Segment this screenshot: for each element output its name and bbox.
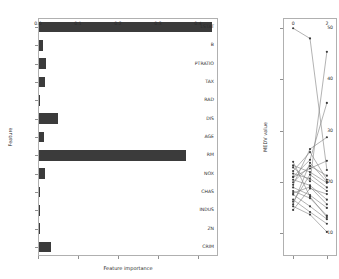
bar-indus xyxy=(39,205,40,216)
data-point xyxy=(292,184,294,186)
line-series xyxy=(283,18,337,256)
data-point xyxy=(326,190,328,192)
matplotlib-figure: 0.00.10.20.30.4 LSTATBPTRATIOTAXRADDISAG… xyxy=(0,0,339,279)
axes-spine-right xyxy=(217,18,218,256)
data-point xyxy=(326,51,328,53)
y-tickmark xyxy=(35,174,38,175)
y-tickmark xyxy=(280,79,283,80)
y-tickmark xyxy=(280,182,283,183)
x-tickmark xyxy=(38,256,39,259)
x-ticklabel-0: 0 xyxy=(292,22,295,27)
bar-nox xyxy=(39,168,45,179)
data-point xyxy=(309,211,311,213)
data-point xyxy=(309,159,311,161)
y-tickmark xyxy=(35,119,38,120)
y-ticklabel-chas: CHAS xyxy=(201,190,214,195)
data-point xyxy=(292,27,294,29)
y-tickmark xyxy=(35,155,38,156)
data-point xyxy=(326,216,328,218)
data-point xyxy=(309,148,311,150)
x-axis-label: Feature importance xyxy=(103,266,152,271)
x-ticklabel-0.3: 0.3 xyxy=(154,22,161,27)
bar-zn xyxy=(39,223,40,234)
data-point xyxy=(326,223,328,225)
y-ticklabel-dis: DIS xyxy=(206,116,214,121)
y-tickmark xyxy=(35,100,38,101)
y-axis-label: MEDV value xyxy=(263,122,268,152)
y-ticklabel-rm: RM xyxy=(207,153,214,158)
bar-rm xyxy=(39,150,186,161)
y-tickmark xyxy=(35,82,38,83)
y-ticklabel-30: 30 xyxy=(327,128,333,133)
y-ticklabel-b: B xyxy=(211,43,214,48)
x-tickmark xyxy=(158,256,159,259)
data-point xyxy=(326,199,328,201)
y-ticklabel-age: AGE xyxy=(204,135,214,140)
bar-age xyxy=(39,132,44,143)
data-point xyxy=(309,213,311,215)
data-point xyxy=(292,179,294,181)
data-point xyxy=(326,160,328,162)
medv-value-axes: 02 1020304050 xyxy=(283,18,337,256)
y-tickmark xyxy=(35,247,38,248)
data-point xyxy=(309,167,311,169)
bar-dis xyxy=(39,113,58,124)
data-point xyxy=(292,172,294,174)
data-point xyxy=(292,164,294,166)
y-ticklabel-40: 40 xyxy=(327,77,333,82)
data-point xyxy=(292,192,294,194)
y-ticklabel-20: 20 xyxy=(327,179,333,184)
data-point xyxy=(326,186,328,188)
y-ticklabel-tax: TAX xyxy=(205,80,214,85)
x-ticklabel-0.0: 0.0 xyxy=(34,22,41,27)
x-tickmark xyxy=(118,256,119,259)
y-ticklabel-rad: RAD xyxy=(204,98,214,103)
data-point xyxy=(326,102,328,104)
x-tickmark xyxy=(198,256,199,259)
data-point xyxy=(292,203,294,205)
data-point xyxy=(326,207,328,209)
data-point xyxy=(292,176,294,178)
data-point xyxy=(326,175,328,177)
data-point xyxy=(326,218,328,220)
data-point xyxy=(309,171,311,173)
data-point xyxy=(292,166,294,168)
y-tickmark xyxy=(280,131,283,132)
bar-ptratio xyxy=(39,58,46,69)
axes-spine-top xyxy=(38,18,218,19)
data-point xyxy=(326,193,328,195)
y-tickmark xyxy=(35,27,38,28)
data-point xyxy=(292,209,294,211)
y-ticklabel-crim: CRIM xyxy=(202,245,214,250)
data-point xyxy=(309,180,311,182)
data-point xyxy=(309,186,311,188)
data-point xyxy=(326,203,328,205)
data-point xyxy=(326,136,328,138)
y-tickmark xyxy=(35,64,38,65)
bar-tax xyxy=(39,77,45,88)
y-tickmark xyxy=(35,210,38,211)
x-tickmark xyxy=(327,256,328,259)
y-axis-label: Feature xyxy=(8,128,13,147)
bar-b xyxy=(39,40,43,51)
x-tickmark xyxy=(78,256,79,259)
y-ticklabel-indus: INDUS xyxy=(199,208,214,213)
data-point xyxy=(292,186,294,188)
data-point xyxy=(292,190,294,192)
x-tickmark xyxy=(293,256,294,259)
x-ticklabel-0.2: 0.2 xyxy=(114,22,121,27)
data-point xyxy=(309,37,311,39)
y-ticklabel-lstat: LSTAT xyxy=(200,25,214,30)
y-tickmark xyxy=(35,45,38,46)
data-point xyxy=(309,174,311,176)
y-ticklabel-nox: NOX xyxy=(204,171,214,176)
y-ticklabel-zn: ZN xyxy=(207,226,214,231)
y-tickmark xyxy=(35,229,38,230)
bar-rad xyxy=(39,95,40,106)
y-tickmark xyxy=(35,192,38,193)
y-tickmark xyxy=(280,28,283,29)
bar-lstat xyxy=(39,22,212,33)
x-ticklabel-0.1: 0.1 xyxy=(74,22,81,27)
data-point xyxy=(292,161,294,163)
data-point xyxy=(309,196,311,198)
